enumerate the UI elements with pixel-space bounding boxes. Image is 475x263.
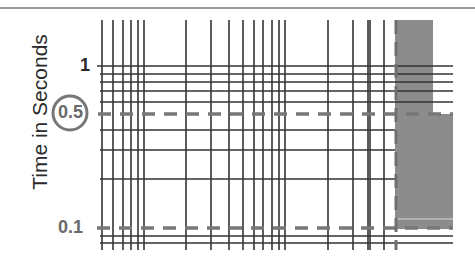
highlight-circle-0-5 [53,96,87,130]
vertical-grid-lines [102,20,384,250]
highlight-region [395,20,453,229]
chart-plot-area [0,0,475,263]
